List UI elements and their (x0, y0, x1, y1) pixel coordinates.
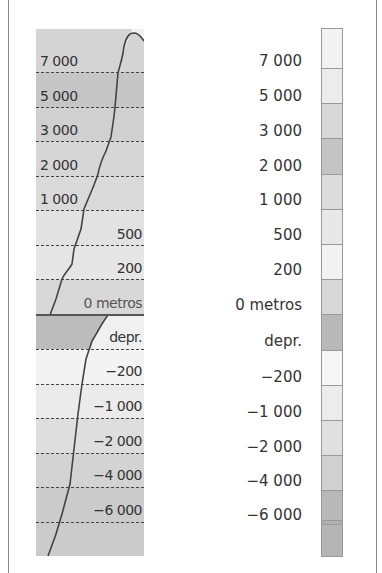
contour-line-7000 (36, 72, 144, 73)
profile-label-5000: 5 000 (40, 88, 78, 104)
contour-line-200 (36, 279, 144, 280)
profile-label-200: 200 (117, 260, 142, 276)
contour-line-1000 (36, 210, 144, 211)
legend-swatch-minus4000 (322, 491, 342, 521)
legend-label-200: 200 (273, 261, 302, 279)
legend-swatch-minus1000 (322, 421, 342, 456)
contour-line-3000 (36, 141, 144, 142)
legend-label-5000: 5 000 (259, 87, 302, 105)
profile-label-7000: 7 000 (40, 53, 78, 69)
profile-label-0-metros: 0 metros (84, 295, 142, 311)
legend-label-minus200: −200 (261, 368, 302, 386)
frame-left-border (8, 0, 9, 573)
contour-line-minus2000 (36, 453, 144, 454)
legend-label-depr: depr. (264, 332, 302, 350)
sea-level-line (36, 314, 144, 316)
profile-label-depr: depr. (109, 329, 142, 345)
legend-color-bar (321, 28, 343, 557)
legend-swatch-above-7000 (322, 29, 342, 69)
legend-label-1000: 1 000 (259, 191, 302, 209)
profile-label-minus1000: −1 000 (93, 398, 142, 414)
legend-label-minus6000: −6 000 (246, 506, 302, 524)
legend-swatch-0-metros (322, 315, 342, 351)
legend-label-2000: 2 000 (259, 157, 302, 175)
profile-label-minus4000: −4 000 (93, 467, 142, 483)
profile-label-minus6000: −6 000 (93, 502, 142, 518)
legend-swatch-deepest (322, 525, 342, 556)
legend-label-minus1000: −1 000 (246, 403, 302, 421)
legend-label-minus2000: −2 000 (246, 438, 302, 456)
contour-line-minus4000 (36, 487, 144, 488)
contour-line-minus200 (36, 384, 144, 385)
legend-swatch-1000 (322, 210, 342, 245)
legend-label-500: 500 (273, 226, 302, 244)
contour-line-500 (36, 245, 144, 246)
elevation-profile: 7 000 5 000 3 000 2 000 1 000 500 200 0 … (36, 29, 144, 556)
contour-line-minus6000 (36, 522, 144, 523)
profile-label-minus200: −200 (106, 363, 142, 379)
legend-swatch-2000 (322, 175, 342, 210)
legend-swatch-7000 (322, 69, 342, 104)
legend-label-0-metros: 0 metros (235, 296, 302, 314)
legend-swatch-3000 (322, 139, 342, 175)
profile-label-2000: 2 000 (40, 157, 78, 173)
contour-line-2000 (36, 176, 144, 177)
legend-swatch-depr (322, 351, 342, 386)
legend-label-3000: 3 000 (259, 122, 302, 140)
profile-label-500: 500 (117, 226, 142, 242)
profile-label-1000: 1 000 (40, 191, 78, 207)
legend-swatch-minus2000 (322, 456, 342, 491)
contour-line-minus1000 (36, 418, 144, 419)
contour-line-5000 (36, 107, 144, 108)
legend-swatch-500 (322, 245, 342, 280)
legend-swatch-5000 (322, 104, 342, 139)
profile-label-3000: 3 000 (40, 122, 78, 138)
legend-label-minus4000: −4 000 (246, 472, 302, 490)
legend-label-7000: 7 000 (259, 52, 302, 70)
legend-swatch-200 (322, 280, 342, 315)
contour-line-depr (36, 349, 144, 350)
frame-right-border (376, 0, 377, 573)
profile-label-minus2000: −2 000 (93, 433, 142, 449)
legend-swatch-minus200 (322, 386, 342, 421)
